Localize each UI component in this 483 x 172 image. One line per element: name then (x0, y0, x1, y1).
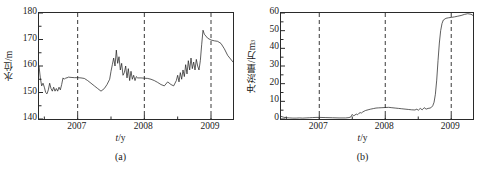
x-axis-label-a-unit: y (121, 133, 126, 143)
y-axis-label-a-text: 水位/m (5, 51, 15, 81)
x-axis-label-b: t/y (242, 134, 483, 144)
figure-root: 水位/m 140150160170180 200720082009 t/y (a… (0, 0, 483, 172)
y-axis-ticks-b: 0102030405060 (256, 0, 279, 110)
x-tick-label: 2007 (309, 122, 328, 132)
y-tick-label: 150 (23, 87, 37, 97)
y-tick-label: 20 (270, 78, 280, 88)
x-tick-label: 2007 (67, 122, 86, 132)
x-tick-label: 2009 (441, 122, 460, 132)
panel-caption-a: (a) (0, 152, 241, 162)
x-axis-label-b-unit: y (363, 133, 368, 143)
y-tick-label: 180 (23, 7, 37, 17)
y-axis-ticks-a: 140150160170180 (16, 0, 37, 110)
panel-caption-b: (b) (242, 152, 483, 162)
y-tick-marks-a (39, 13, 43, 119)
chart-panel-b: 冲淤量/万m3 0102030405060 200720082009 t/y (… (242, 0, 483, 172)
x-tick-label: 2008 (134, 122, 153, 132)
y-tick-label: 0 (274, 113, 279, 123)
x-axis-label-a: t/y (0, 134, 241, 144)
y-tick-label: 10 (270, 96, 280, 106)
plot-svg-b (281, 13, 473, 119)
sediment-volume-series-line (281, 14, 473, 118)
water-level-series-line (39, 30, 233, 94)
x-tick-marks-b (286, 115, 451, 119)
year-divider-lines-a (78, 13, 211, 119)
y-tick-label: 50 (270, 25, 280, 35)
x-tick-label: 2009 (201, 122, 220, 132)
x-tick-label: 2008 (375, 122, 394, 132)
year-divider-lines-b (319, 13, 451, 119)
plot-svg-a (39, 13, 233, 119)
y-tick-label: 60 (270, 7, 280, 17)
y-tick-label: 170 (23, 34, 37, 44)
y-tick-label: 140 (23, 113, 37, 123)
plot-area-b (280, 12, 474, 120)
y-tick-label: 30 (270, 60, 280, 70)
y-tick-label: 40 (270, 43, 280, 53)
chart-panel-a: 水位/m 140150160170180 200720082009 t/y (a… (0, 0, 241, 172)
plot-area-a (38, 12, 234, 120)
y-tick-marks-b (281, 13, 285, 119)
y-tick-label: 160 (23, 60, 37, 70)
x-tick-marks-a (44, 115, 211, 119)
